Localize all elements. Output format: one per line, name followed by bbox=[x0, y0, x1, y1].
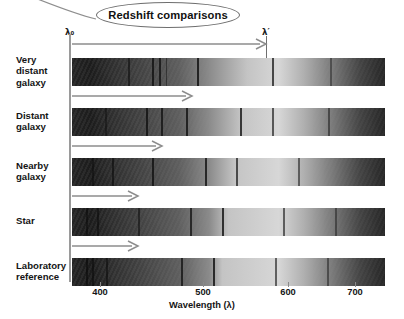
absorption-line bbox=[222, 208, 224, 236]
absorption-line bbox=[205, 158, 207, 186]
absorption-line bbox=[272, 108, 274, 136]
redshift-arrow-2 bbox=[72, 90, 192, 102]
absorption-line bbox=[186, 108, 188, 136]
absorption-line bbox=[92, 158, 94, 186]
absorption-line bbox=[161, 108, 163, 136]
spectrum-band-laboratory-reference bbox=[72, 258, 385, 286]
spectrum-noise-overlay bbox=[72, 108, 385, 136]
spectrum-band-nearby-galaxy bbox=[72, 158, 385, 186]
redshift-comparison-figure: Redshift comparisons λ₀ λ′ Verydistantga… bbox=[0, 0, 404, 319]
row-label-line: galaxy bbox=[16, 121, 72, 132]
row-label-line: Very bbox=[16, 54, 72, 65]
spectrum-band-star bbox=[72, 208, 385, 236]
page-title: Redshift comparisons bbox=[108, 9, 228, 21]
absorption-line bbox=[159, 58, 161, 86]
redshift-arrow-4 bbox=[72, 190, 138, 202]
absorption-line bbox=[152, 158, 154, 186]
absorption-line bbox=[328, 108, 330, 136]
row-label-line: galaxy bbox=[16, 77, 72, 88]
row-label-line: Distant bbox=[16, 110, 72, 121]
x-tick-label-500: 500 bbox=[195, 287, 211, 297]
row-label-nearby-galaxy: Nearbygalaxy bbox=[16, 160, 72, 183]
absorption-line bbox=[86, 208, 88, 236]
absorption-line bbox=[275, 258, 277, 286]
x-axis-title: Wavelength (λ) bbox=[0, 300, 404, 310]
spectrum-noise-overlay bbox=[72, 208, 385, 236]
spectrum-band-very-distant-galaxy bbox=[72, 58, 385, 86]
absorption-line bbox=[92, 258, 94, 286]
row-label-line: Nearby bbox=[16, 160, 72, 171]
absorption-line bbox=[112, 158, 114, 186]
row-label-line: distant bbox=[16, 65, 72, 76]
redshift-arrow-3 bbox=[72, 140, 162, 152]
row-label-star: Star bbox=[16, 215, 72, 226]
spectrum-noise-overlay bbox=[72, 258, 385, 286]
absorption-line bbox=[181, 258, 183, 286]
absorption-line bbox=[105, 108, 107, 136]
row-label-distant-galaxy: Distantgalaxy bbox=[16, 110, 72, 133]
absorption-line bbox=[272, 58, 274, 86]
redshift-arrow-1 bbox=[72, 38, 266, 50]
absorption-line bbox=[146, 108, 148, 136]
absorption-line bbox=[106, 258, 108, 286]
row-label-line: galaxy bbox=[16, 171, 72, 182]
absorption-line bbox=[335, 208, 337, 236]
absorption-line bbox=[330, 58, 332, 86]
absorption-line bbox=[197, 58, 199, 86]
row-label-line: reference bbox=[16, 271, 72, 282]
absorption-line bbox=[128, 58, 130, 86]
redshift-arrow-5 bbox=[72, 240, 138, 252]
absorption-line bbox=[213, 258, 215, 286]
row-label-laboratory-reference: Laboratoryreference bbox=[16, 260, 72, 283]
x-tick-label-400: 400 bbox=[92, 287, 108, 297]
absorption-line bbox=[240, 108, 242, 136]
x-tick-label-600: 600 bbox=[280, 287, 296, 297]
row-label-very-distant-galaxy: Verydistantgalaxy bbox=[16, 54, 72, 88]
absorption-line bbox=[327, 258, 329, 286]
absorption-line bbox=[190, 208, 192, 236]
spectrum-band-distant-galaxy bbox=[72, 108, 385, 136]
row-label-line: Laboratory bbox=[16, 260, 72, 271]
spectrum-noise-overlay bbox=[72, 158, 385, 186]
absorption-line bbox=[166, 58, 167, 86]
title-callout: Redshift comparisons bbox=[96, 2, 240, 28]
absorption-line bbox=[283, 208, 285, 236]
absorption-line bbox=[86, 258, 88, 286]
absorption-line bbox=[138, 208, 140, 236]
absorption-line bbox=[97, 208, 99, 236]
absorption-line bbox=[152, 58, 154, 86]
spectrum-noise-overlay bbox=[72, 58, 385, 86]
row-label-line: Star bbox=[16, 215, 72, 226]
absorption-line bbox=[236, 158, 238, 186]
absorption-line bbox=[298, 158, 300, 186]
x-tick-label-700: 700 bbox=[347, 287, 363, 297]
